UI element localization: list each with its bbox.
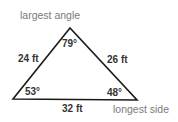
- angle-top: 79°: [62, 39, 77, 49]
- angle-bottom-right: 48°: [107, 88, 122, 98]
- angle-bottom-left: 53°: [25, 87, 40, 97]
- side-left-label: 24 ft: [18, 54, 39, 64]
- side-bottom-label: 32 ft: [62, 104, 83, 114]
- side-right-label: 26 ft: [107, 55, 128, 65]
- largest-angle-annotation: largest angle: [20, 10, 80, 21]
- longest-side-annotation: longest side: [113, 104, 169, 115]
